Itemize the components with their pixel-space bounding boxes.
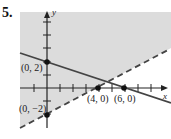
label-0-2: (0, 2) bbox=[21, 62, 43, 74]
label-6-0: (6, 0) bbox=[114, 93, 136, 105]
y-axis-label: y bbox=[51, 7, 56, 17]
point-4-0 bbox=[95, 85, 101, 91]
point-6-0 bbox=[121, 85, 127, 91]
x-axis-label: x bbox=[162, 91, 167, 101]
label-0-neg2: (0, −2) bbox=[19, 103, 46, 115]
point-0-2 bbox=[44, 59, 50, 65]
inequality-graph: (0, 2) (0, −2) (4, 0) (6, 0) x y bbox=[0, 0, 171, 139]
label-4-0: (4, 0) bbox=[87, 93, 109, 105]
